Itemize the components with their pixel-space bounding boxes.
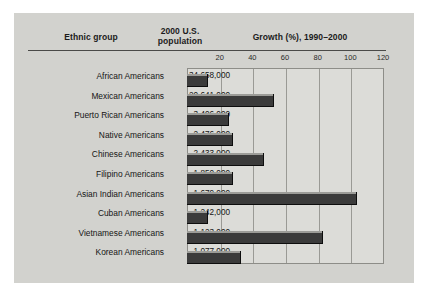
row-label-ethnic-group: Filipino Americans [14,169,164,179]
bar-growth [187,113,229,126]
row-label-ethnic-group: Native Americans [14,130,164,140]
chart-row: Asian Indian Americans1,679,000 [14,189,414,209]
bar-track [187,247,414,267]
row-label-ethnic-group: Vietnamese Americans [14,228,164,238]
bar-growth [187,94,274,107]
bar-growth [187,251,241,264]
row-label-ethnic-group: African Americans [14,71,164,81]
bar-track [187,208,414,228]
x-axis-tick-120: 120 [377,53,390,62]
bar-track [187,189,414,209]
x-axis-tick-60: 60 [281,53,289,62]
row-label-ethnic-group: Mexican Americans [14,91,164,101]
bar-track [187,110,414,130]
chart-figure: Ethnic group 2000 U.S. population Growth… [14,13,414,283]
row-label-ethnic-group: Asian Indian Americans [14,189,164,199]
chart-inner: Ethnic group 2000 U.S. population Growth… [14,13,414,283]
bar-growth [187,74,208,87]
chart-row: Korean Americans1,077,000 [14,247,414,267]
bar-track [187,130,414,150]
bar-track [187,71,414,91]
bar-track [187,228,414,248]
row-label-ethnic-group: Puerto Rican Americans [14,110,164,120]
row-label-ethnic-group: Korean Americans [14,247,164,257]
bar-growth [187,231,323,244]
chart-row: Cuban Americans1,242,000 [14,208,414,228]
chart-row: Mexican Americans20,641,000 [14,91,414,111]
chart-row: Vietnamese Americans1,123,000 [14,228,414,248]
chart-row: Puerto Rican Americans3,406,000 [14,110,414,130]
x-axis-tick-20: 20 [215,53,223,62]
chart-row: Filipino Americans1,850,000 [14,169,414,189]
x-axis-tick-labels: 20406080100120 [187,53,387,68]
bar-growth [187,211,208,224]
column-header-growth: Growth (%), 1990–2000 [200,33,400,43]
bar-growth [187,133,233,146]
header-divider [28,50,386,51]
column-header-ethnic-group: Ethnic group [32,33,150,43]
x-axis-tick-40: 40 [248,53,256,62]
bar-growth [187,172,233,185]
row-label-ethnic-group: Chinese Americans [14,149,164,159]
x-axis-tick-80: 80 [313,53,321,62]
bar-growth [187,192,357,205]
x-axis-tick-100: 100 [344,53,357,62]
bar-track [187,91,414,111]
chart-row: African Americans34,658,000 [14,71,414,91]
chart-row: Native Americans2,476,000 [14,130,414,150]
bar-track [187,149,414,169]
bar-growth [187,153,264,166]
row-label-ethnic-group: Cuban Americans [14,208,164,218]
chart-row: Chinese Americans2,433,000 [14,149,414,169]
bar-track [187,169,414,189]
